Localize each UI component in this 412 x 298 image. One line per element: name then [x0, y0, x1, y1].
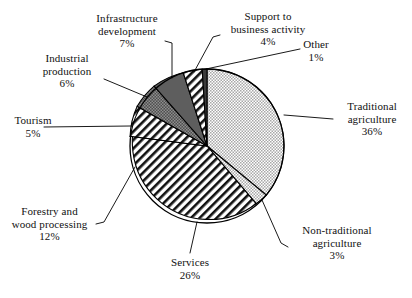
label-infrastructure-development: Infrastructure development 7%: [85, 12, 169, 50]
label-forestry-wood-processing: Forestry and wood processing 12%: [2, 205, 97, 243]
label-industrial-pct: 6%: [28, 77, 106, 90]
label-other-pct: 1%: [288, 51, 344, 64]
label-trad-line2: agriculture: [348, 113, 397, 125]
label-other-line1: Other: [303, 38, 329, 50]
label-services: Services 26%: [157, 256, 223, 281]
label-non-traditional-agriculture: Non-traditional agriculture 3%: [287, 224, 387, 262]
label-industrial-production: Industrial production 6%: [28, 52, 106, 90]
label-services-pct: 26%: [157, 269, 223, 282]
label-support-line1: Support to: [244, 10, 291, 22]
label-nontrad-line2: agriculture: [313, 237, 362, 249]
label-nontrad-pct: 3%: [287, 249, 387, 262]
label-tourism: Tourism 5%: [5, 114, 61, 139]
leader-line-industrial-production: [104, 79, 147, 97]
label-industrial-line1: Industrial: [45, 52, 88, 64]
label-infra-line2: development: [98, 25, 156, 37]
label-forestry-pct: 12%: [2, 230, 97, 243]
leader-line-non-traditional-agriculture: [262, 200, 288, 247]
label-tourism-line1: Tourism: [14, 114, 51, 126]
leader-line-other: [206, 49, 300, 69]
label-trad-line1: Traditional: [347, 100, 397, 112]
leader-line-forestry: [96, 167, 135, 224]
label-tourism-pct: 5%: [5, 127, 61, 140]
pie-chart-page: Support to business activity 4% Other 1%…: [0, 0, 412, 298]
label-forestry-line1: Forestry and: [21, 205, 78, 217]
label-traditional-agriculture: Traditional agriculture 36%: [334, 100, 410, 138]
label-infra-line1: Infrastructure: [96, 12, 157, 24]
label-forestry-line2: wood processing: [12, 218, 88, 230]
label-nontrad-line1: Non-traditional: [302, 224, 371, 236]
label-industrial-line2: production: [43, 65, 92, 77]
label-other: Other 1%: [288, 38, 344, 63]
label-services-line1: Services: [171, 256, 209, 268]
label-support-line2: business activity: [231, 23, 306, 35]
label-infra-pct: 7%: [85, 37, 169, 50]
label-trad-pct: 36%: [334, 125, 410, 138]
leader-line-services: [190, 222, 197, 253]
leader-line-traditional-agriculture: [284, 115, 333, 119]
